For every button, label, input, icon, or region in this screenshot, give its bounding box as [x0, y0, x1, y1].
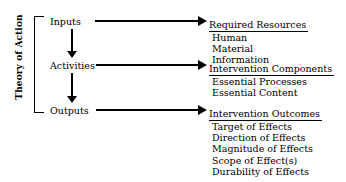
arrow-shaft	[71, 73, 73, 96]
right-arrow-activities-to-intervention-components	[96, 60, 207, 70]
list-item: Target of Effects	[212, 121, 322, 132]
group-list-intervention-components: Essential Processes Essential Content	[209, 76, 334, 98]
list-item: Durability of Effects	[212, 166, 322, 177]
arrow-head-icon	[198, 105, 207, 115]
group-heading-required-resources: Required Resources	[209, 19, 308, 32]
list-item: Direction of Effects	[212, 132, 322, 143]
arrow-shaft	[96, 64, 199, 66]
arrow-head-icon	[67, 96, 77, 103]
list-item: Scope of Effect(s)	[212, 155, 322, 166]
arrow-head-icon	[198, 60, 207, 70]
down-arrow-activities-to-outputs	[66, 73, 78, 103]
group-intervention-outcomes: Intervention Outcomes Target of Effects …	[209, 102, 322, 177]
arrow-shaft	[71, 29, 73, 51]
list-item: Essential Processes	[212, 76, 334, 87]
theory-of-action-diagram: Theory of Action Inputs Activities Outpu…	[0, 0, 346, 182]
list-item: Magnitude of Effects	[212, 143, 322, 154]
arrow-head-icon	[198, 16, 207, 26]
stage-label-inputs: Inputs	[50, 16, 81, 27]
stages-grouping-bracket	[34, 16, 44, 113]
list-item: Essential Content	[212, 87, 334, 98]
arrow-head-icon	[67, 51, 77, 58]
right-arrow-outputs-to-intervention-outcomes	[96, 105, 207, 115]
down-arrow-inputs-to-activities	[66, 29, 78, 58]
group-heading-intervention-components: Intervention Components	[209, 63, 334, 76]
list-item: Human	[212, 32, 308, 43]
stage-label-outputs: Outputs	[50, 105, 89, 116]
right-arrow-inputs-to-required-resources	[95, 16, 207, 26]
group-intervention-components: Intervention Components Essential Proces…	[209, 57, 334, 98]
theory-of-action-side-label: Theory of Action	[14, 2, 24, 112]
arrow-shaft	[95, 20, 199, 22]
group-heading-intervention-outcomes: Intervention Outcomes	[209, 108, 322, 121]
group-list-intervention-outcomes: Target of Effects Direction of Effects M…	[209, 121, 322, 177]
stage-label-activities: Activities	[50, 60, 95, 71]
arrow-shaft	[96, 109, 199, 111]
list-item: Material	[212, 43, 308, 54]
